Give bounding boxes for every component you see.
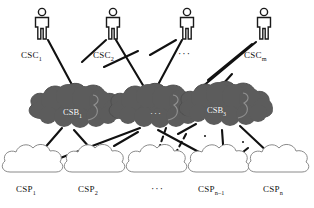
csc1-label: CSC1 xyxy=(21,50,42,62)
csb3-label: CSB3 xyxy=(207,105,226,117)
csb-ellipsis-label: ··· xyxy=(150,108,162,118)
csp2-label: CSP2 xyxy=(78,184,98,196)
cspn-provider-cloud[interactable] xyxy=(248,144,309,172)
csc2-person-icon[interactable] xyxy=(107,8,120,39)
csb1-label: CSB1 xyxy=(63,107,82,119)
cspn1-label: CSPn–1 xyxy=(198,184,225,196)
edge-cscd-left xyxy=(150,40,176,55)
csb3-broker-cloud[interactable] xyxy=(179,81,273,126)
cspn1-provider-cloud[interactable] xyxy=(188,144,249,172)
csc2-label: CSC2 xyxy=(93,50,114,62)
stray-marks xyxy=(204,135,244,143)
csp-mid-provider-cloud[interactable] xyxy=(126,144,187,172)
csp-ellipsis-label: ··· xyxy=(151,183,164,194)
cscm-person-icon[interactable] xyxy=(258,8,271,39)
cscm-label: CSCm xyxy=(244,50,267,62)
csp2-provider-cloud[interactable] xyxy=(64,144,125,172)
cspn-label: CSPn xyxy=(263,184,283,196)
csc-mid-person-icon[interactable] xyxy=(181,8,194,39)
csb1-broker-cloud[interactable] xyxy=(29,83,123,128)
csc-ellipsis-label: ··· xyxy=(178,48,191,59)
csc1-person-icon[interactable] xyxy=(36,8,49,39)
diagram-svg xyxy=(0,0,314,208)
csp1-provider-cloud[interactable] xyxy=(2,144,63,172)
csp1-label: CSP1 xyxy=(16,184,36,196)
diagram-canvas: CSC1 CSC2 ··· CSCm CSB1 ··· CSB3 CSP1 CS… xyxy=(0,0,314,208)
